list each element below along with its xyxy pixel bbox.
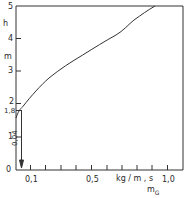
x-tick-0-1: 0,1 <box>25 176 38 184</box>
arrow-icon <box>20 110 24 168</box>
axes-frame <box>16 6 183 170</box>
x-axis-subscript: G <box>155 189 160 196</box>
x-unit: kg / m , s <box>116 175 153 183</box>
y-label-m: m <box>4 53 12 61</box>
data-curve <box>16 6 155 118</box>
y-ticks <box>16 39 21 138</box>
y-tick-4: 4 <box>8 35 13 43</box>
arrow-value-label: 0,04 <box>11 130 19 146</box>
y-tick-1-8: 1,8 <box>4 107 15 115</box>
x-axis-name: mG <box>147 186 159 197</box>
chart-plot <box>0 0 188 198</box>
y-label-h: h <box>3 20 8 28</box>
x-tick-1-0: 1,0 <box>162 176 175 184</box>
y-tick-5: 5 <box>8 3 13 11</box>
x-axis-symbol: m <box>147 185 155 194</box>
x-tick-0-5: 0,5 <box>86 176 99 184</box>
y-tick-0: 0 <box>6 166 11 174</box>
y-tick-3: 3 <box>8 67 13 75</box>
x-ticks <box>31 165 168 170</box>
y-tick-2: 2 <box>9 98 14 106</box>
